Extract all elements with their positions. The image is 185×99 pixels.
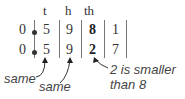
annotation-smaller-line2: than 8 (110, 78, 146, 91)
arrow-head-icon (67, 57, 73, 63)
arrow-head-icon (42, 57, 48, 63)
annotation-same-hundredths: same (39, 80, 71, 93)
annotation-smaller-line1: 2 is smaller (110, 63, 176, 76)
annotation-same-tenths: same (4, 72, 36, 85)
